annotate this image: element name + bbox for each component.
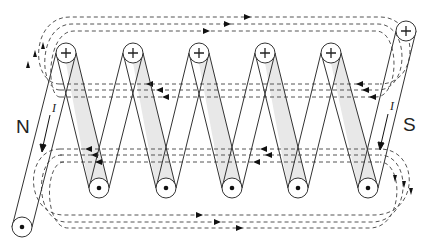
coil-shading xyxy=(66,53,378,188)
current-label-right: I xyxy=(390,99,394,114)
dot-icons xyxy=(20,186,371,230)
south-pole-label: S xyxy=(403,114,416,136)
solenoid-diagram: N S I I xyxy=(0,0,434,252)
top-conductors xyxy=(56,21,416,63)
current-label-left: I xyxy=(52,101,56,116)
north-pole-label: N xyxy=(16,116,30,138)
diagram-canvas xyxy=(0,0,434,252)
